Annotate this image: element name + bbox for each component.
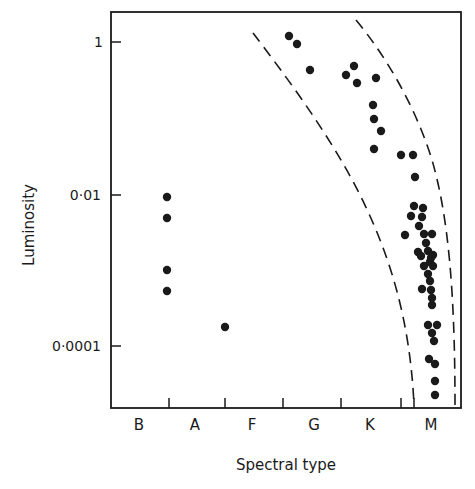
star-data-point: [401, 231, 409, 239]
star-data-point: [428, 301, 436, 309]
star-data-point: [369, 101, 377, 109]
star-data-point: [429, 262, 437, 270]
star-data-point: [163, 214, 171, 222]
star-data-point: [431, 391, 439, 399]
data-points: [163, 32, 441, 399]
y-tick-label: 0·0001: [52, 338, 101, 354]
star-data-point: [422, 239, 430, 247]
star-data-point: [418, 285, 426, 293]
y-tick-label: 1: [94, 34, 103, 50]
outer-boundary-curve: [356, 20, 455, 405]
star-data-point: [424, 321, 432, 329]
star-data-point: [415, 222, 423, 230]
star-data-point: [163, 266, 171, 274]
star-data-point: [350, 62, 358, 70]
star-data-point: [163, 193, 171, 201]
x-category-label: A: [190, 416, 201, 434]
star-data-point: [409, 151, 417, 159]
star-data-point: [418, 213, 426, 221]
star-data-point: [293, 40, 301, 48]
star-data-point: [420, 262, 428, 270]
star-data-point: [431, 377, 439, 385]
star-data-point: [426, 277, 434, 285]
star-data-point: [353, 79, 361, 87]
scatter-chart: 10·010·0001 BAFGKM Spectral type Luminos…: [0, 0, 475, 489]
x-category-label: M: [425, 416, 438, 434]
star-data-point: [431, 360, 439, 368]
x-category-label: F: [248, 416, 257, 434]
star-data-point: [372, 74, 380, 82]
star-data-point: [306, 66, 314, 74]
x-category-label: K: [365, 416, 376, 434]
star-data-point: [427, 286, 435, 294]
star-data-point: [370, 115, 378, 123]
inner-boundary-curve: [253, 33, 414, 405]
y-tick-label: 0·01: [70, 187, 101, 203]
star-data-point: [410, 202, 418, 210]
star-data-point: [430, 337, 438, 345]
star-data-point: [221, 323, 229, 331]
star-data-point: [420, 230, 428, 238]
star-data-point: [419, 204, 427, 212]
dashed-boundary-curves: [253, 20, 455, 405]
star-data-point: [163, 287, 171, 295]
plot-frame: [111, 12, 461, 408]
star-data-point: [285, 32, 293, 40]
x-axis-title: Spectral type: [236, 456, 336, 474]
star-data-point: [377, 127, 385, 135]
x-axis-ticks: BAFGKM: [134, 398, 438, 434]
star-data-point: [411, 173, 419, 181]
x-category-label: B: [134, 416, 144, 434]
star-data-point: [427, 254, 435, 262]
star-data-point: [397, 151, 405, 159]
star-data-point: [417, 252, 425, 260]
star-data-point: [342, 71, 350, 79]
star-data-point: [433, 321, 441, 329]
star-data-point: [428, 329, 436, 337]
star-data-point: [370, 145, 378, 153]
star-data-point: [428, 230, 436, 238]
star-data-point: [407, 212, 415, 220]
plot-border: [111, 12, 461, 408]
y-axis-title: Luminosity: [20, 184, 38, 266]
x-category-label: G: [308, 416, 320, 434]
